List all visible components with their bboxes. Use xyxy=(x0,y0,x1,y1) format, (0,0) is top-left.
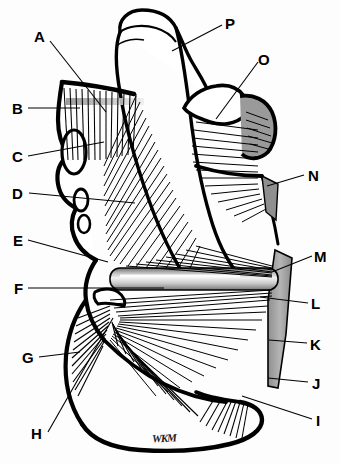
infraspinous-gray-wedge xyxy=(262,176,278,220)
label-a: A xyxy=(34,29,45,44)
label-f: F xyxy=(14,281,23,296)
label-e: E xyxy=(13,233,23,248)
anatomy-illustration xyxy=(0,0,340,464)
label-m: M xyxy=(314,249,327,264)
scapular-notch-upper xyxy=(62,130,86,174)
glenoid-cartilage xyxy=(240,96,275,159)
label-l: L xyxy=(311,296,320,311)
bone-outlines xyxy=(57,10,278,451)
label-d: D xyxy=(12,186,23,201)
label-n: N xyxy=(308,168,319,183)
label-c: C xyxy=(12,149,23,164)
scapular-foramen-lower xyxy=(78,215,90,233)
label-b: B xyxy=(12,101,23,116)
label-j: J xyxy=(312,376,320,391)
coracoid-process xyxy=(184,85,247,124)
label-o: O xyxy=(258,52,270,67)
leader-e xyxy=(28,240,108,262)
humerus-head-outline xyxy=(120,10,210,96)
artist-signature: WKM xyxy=(152,431,177,444)
label-p: P xyxy=(225,16,235,31)
fiber-group-subscapularis xyxy=(104,96,200,268)
fiber-group-latissimus xyxy=(110,290,272,396)
scapular-foramen-mid xyxy=(74,189,88,211)
anatomical-figure: A B C D E F G H P O N M L K J I WKM xyxy=(0,0,340,464)
label-i: I xyxy=(316,413,320,428)
leader-h xyxy=(48,318,113,432)
label-g: G xyxy=(22,350,34,365)
label-k: K xyxy=(310,337,321,352)
fiber-group-teres-major xyxy=(72,306,110,396)
label-h: H xyxy=(31,426,42,441)
scapula-superior-border xyxy=(62,82,134,94)
